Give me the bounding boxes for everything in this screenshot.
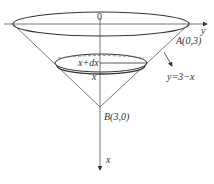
point-a-label: A(0,3) xyxy=(175,35,202,47)
slice-bottom-label: x xyxy=(91,71,97,82)
x-axis-label: x xyxy=(105,154,111,165)
line-label: y=3−x xyxy=(166,71,195,82)
slice-top-front xyxy=(55,63,147,72)
cone-diagram: 0 y A(0,3) y=3−x x+dx x B(3,0) x xyxy=(0,0,214,184)
line-pointer xyxy=(164,52,172,66)
slice-top-back xyxy=(55,54,147,63)
slice-top-label: x+dx xyxy=(77,57,99,68)
origin-label: 0 xyxy=(97,11,102,22)
point-b-label: B(3,0) xyxy=(104,111,130,123)
